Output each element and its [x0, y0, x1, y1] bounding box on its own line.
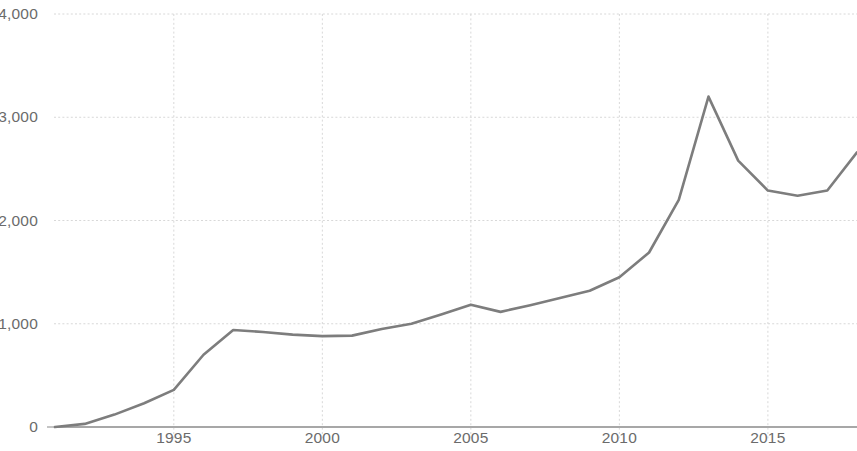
- line-chart: 01,0002,0003,0004,000 199520002005201020…: [0, 0, 857, 451]
- y-tick: 3,000: [0, 117, 46, 118]
- y-tick-label: 3,000: [0, 109, 38, 125]
- y-tick-label: 1,000: [0, 316, 38, 332]
- x-tick-label: 2000: [305, 430, 340, 446]
- x-tick-label: 2015: [750, 430, 785, 446]
- plot-area: [0, 0, 857, 451]
- y-tick: 2,000: [0, 221, 46, 222]
- x-gridlines: [174, 14, 768, 441]
- y-tick-label: 4,000: [0, 6, 38, 22]
- x-tick-label: 2010: [602, 430, 637, 446]
- y-tick: 0: [0, 427, 46, 428]
- y-tick-label: 0: [29, 419, 38, 435]
- y-gridlines: [54, 14, 857, 427]
- x-tick-label: 1995: [156, 430, 191, 446]
- y-tick: 4,000: [0, 14, 46, 15]
- chart-canvas: [0, 0, 857, 451]
- y-tick: 1,000: [0, 324, 46, 325]
- y-tick-label: 2,000: [0, 213, 38, 229]
- data-line-series-1: [55, 97, 857, 427]
- x-tick-label: 2005: [453, 430, 488, 446]
